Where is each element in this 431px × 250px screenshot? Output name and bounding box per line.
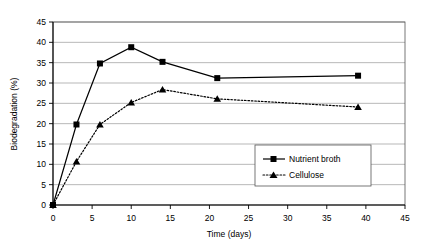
- data-point: [355, 73, 361, 79]
- x-tick-label-40: 40: [361, 213, 371, 223]
- x-tick-label-15: 15: [166, 213, 176, 223]
- y-tick-label-0: 0: [41, 200, 46, 210]
- data-point: [73, 121, 79, 127]
- biodegradation-line-chart: 051015202530354045 Biodegradation (%) 05…: [0, 0, 431, 250]
- data-point: [160, 59, 166, 65]
- x-tick-label-5: 5: [90, 213, 95, 223]
- data-point: [97, 60, 103, 66]
- x-tick-label-35: 35: [322, 213, 332, 223]
- legend-label-cellulose: Cellulose: [289, 170, 324, 180]
- y-tick-label-45: 45: [37, 17, 47, 27]
- chart-legend: Nutrient broth Cellulose: [255, 145, 371, 186]
- y-tick-label-5: 5: [41, 180, 46, 190]
- data-point: [214, 75, 220, 81]
- x-axis-title: Time (days): [207, 229, 252, 239]
- x-tick-label-45: 45: [400, 213, 410, 223]
- x-tick-label-20: 20: [205, 213, 215, 223]
- x-tick-label-30: 30: [283, 213, 293, 223]
- y-tick-label-25: 25: [37, 98, 47, 108]
- y-tick-label-30: 30: [37, 78, 47, 88]
- x-tick-label-0: 0: [51, 213, 56, 223]
- x-tick-label-10: 10: [126, 213, 136, 223]
- y-tick-label-35: 35: [37, 58, 47, 68]
- legend-marker-square: [271, 156, 277, 162]
- y-tick-label-40: 40: [37, 37, 47, 47]
- x-tick-label-25: 25: [244, 213, 254, 223]
- y-axis-title: Biodegradation (%): [9, 77, 19, 150]
- data-point: [128, 44, 134, 50]
- legend-label-nutrient-broth: Nutrient broth: [289, 154, 341, 164]
- y-tick-label-10: 10: [37, 159, 47, 169]
- y-tick-label-15: 15: [37, 139, 47, 149]
- y-tick-label-20: 20: [37, 119, 47, 129]
